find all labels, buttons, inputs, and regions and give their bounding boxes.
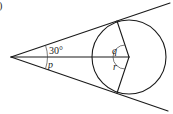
angle-label-q: q <box>112 45 117 56</box>
angle-label-30: 30° <box>49 45 63 56</box>
upper-tangent-line <box>11 3 170 57</box>
angle-label-r: r <box>113 61 117 72</box>
lower-radius <box>117 57 129 93</box>
upper-radius <box>117 21 129 57</box>
tangent-circle-diagram: ) 30° p q r <box>0 0 173 114</box>
lower-tangent-line <box>11 57 168 111</box>
corner-mark: ) <box>0 0 2 12</box>
angle-label-p: p <box>47 59 53 70</box>
